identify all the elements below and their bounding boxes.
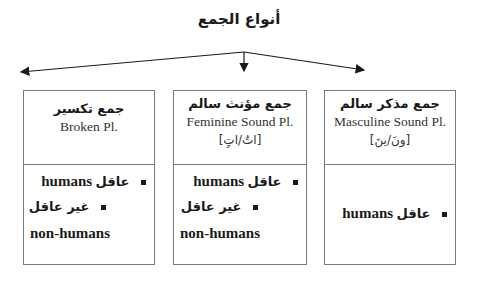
- branch-arrows: [0, 0, 478, 100]
- list-item: humans عاقل: [41, 173, 146, 190]
- bullet-icon: [253, 205, 258, 210]
- bullet-icon: [101, 205, 106, 210]
- list-item: غير عاقل: [181, 199, 258, 215]
- heading-english: Feminine Sound Pl.: [174, 113, 306, 131]
- box-body: humans عاقل: [325, 165, 455, 264]
- bullet-icon: [293, 180, 298, 185]
- arrow-left: [21, 52, 244, 72]
- heading-english: Masculine Sound Pl.: [325, 113, 455, 131]
- bullet-icon: [442, 212, 447, 217]
- list-item-continuation: non-humans: [30, 225, 110, 242]
- arrow-right: [244, 52, 364, 70]
- list-item-continuation: non-humans: [180, 225, 260, 242]
- heading-suffix: [اتٌ/اتٍ]: [174, 131, 306, 149]
- heading-english: Broken Pl.: [24, 118, 154, 136]
- heading-arabic: جمع تكسير: [24, 100, 154, 118]
- box-feminine-sound-plural: جمع مؤنث سالم Feminine Sound Pl. [اتٌ/ات…: [173, 90, 307, 265]
- heading-arabic: جمع مذكر سالم: [325, 95, 455, 113]
- list-item: humans عاقل: [342, 205, 447, 222]
- heading-arabic: جمع مؤنث سالم: [174, 95, 306, 113]
- box-body: humans عاقل غير عاقل non-humans: [24, 165, 154, 264]
- bullet-icon: [141, 180, 146, 185]
- box-heading: جمع تكسير Broken Pl.: [24, 91, 154, 165]
- box-body: humans عاقل غير عاقل non-humans: [174, 165, 306, 264]
- heading-suffix: [ونَ/ينَ]: [325, 131, 455, 149]
- box-heading: جمع مذكر سالم Masculine Sound Pl. [ونَ/ي…: [325, 91, 455, 165]
- box-heading: جمع مؤنث سالم Feminine Sound Pl. [اتٌ/ات…: [174, 91, 306, 165]
- box-masculine-sound-plural: جمع مذكر سالم Masculine Sound Pl. [ونَ/ي…: [324, 90, 456, 265]
- list-item: غير عاقل: [29, 199, 106, 215]
- box-broken-plural: جمع تكسير Broken Pl. humans عاقل غير عاق…: [23, 90, 155, 265]
- list-item: humans عاقل: [193, 173, 298, 190]
